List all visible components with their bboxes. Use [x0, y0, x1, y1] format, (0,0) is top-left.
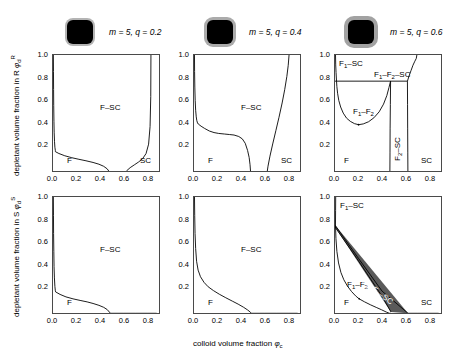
curve-fluid-solid-binodal-left [194, 55, 198, 124]
xtick-top-2-0.2: 0.2 [207, 174, 227, 183]
header-2-m: m = 5, [249, 27, 273, 37]
panel-header-1: m = 5, q = 0.2 [67, 20, 161, 44]
ytick-bottom-2-0.2: 0.2 [169, 282, 189, 291]
panel-header-3: m = 5, q = 0.6 [348, 20, 442, 44]
ytick-top-1-0.2: 0.2 [28, 140, 48, 149]
region-label-f1-sc-top-3: F1–SC [339, 60, 363, 68]
ytick-bottom-1-1.0: 1.0 [28, 192, 48, 201]
xtick-top-1-0.0: 0.0 [42, 174, 62, 183]
xtick-bottom-3-0.8: 0.8 [420, 316, 440, 325]
region-label-sc-top-2: SC [281, 157, 292, 165]
header-1-m: m = 5, [109, 27, 133, 37]
region-label-f-bottom-3: F [344, 299, 349, 307]
ytick-bottom-3-0.8: 0.8 [310, 215, 330, 224]
ytick-top-2-0.8: 0.8 [169, 73, 189, 82]
ytick-bottom-2-0.6: 0.6 [169, 237, 189, 246]
y-axis-top-sub: d [16, 59, 22, 62]
ytick-top-1-0.4: 0.4 [28, 118, 48, 127]
region-label-f-sc-bottom-2: F–SC [241, 246, 261, 254]
ytick-bottom-1-0.6: 0.6 [28, 237, 48, 246]
ytick-top-3-0.4: 0.4 [310, 118, 330, 127]
y-axis-bottom-sup: S [10, 197, 16, 201]
x-axis-text: colloid volume fraction [193, 339, 274, 348]
ytick-top-2-0.2: 0.2 [169, 140, 189, 149]
ytick-top-3-1.0: 1.0 [310, 50, 330, 59]
ytick-top-3-0.8: 0.8 [310, 73, 330, 82]
curve-f1f2-binodal-left [337, 81, 359, 125]
y-axis-label-top-row: depletant volume fraction in R φdR [12, 55, 21, 176]
ytick-bottom-2-1.0: 1.0 [169, 192, 189, 201]
ytick-top-1-0.8: 0.8 [28, 73, 48, 82]
panel-header-label-2: m = 5, q = 0.4 [249, 27, 301, 37]
ytick-bottom-1-0.8: 0.8 [28, 215, 48, 224]
region-label-f-top-2: F [208, 157, 213, 165]
plot-area-top-1 [53, 55, 159, 171]
xtick-top-3-0.0: 0.0 [324, 174, 344, 183]
ytick-top-1-0.6: 0.6 [28, 95, 48, 104]
ytick-top-2-0.4: 0.4 [169, 118, 189, 127]
xtick-bottom-1-0.0: 0.0 [42, 316, 62, 325]
ytick-bottom-1-0.2: 0.2 [28, 282, 48, 291]
region-label-sc-top-1: SC [140, 157, 151, 165]
curve-left-edge-branch [335, 55, 336, 81]
y-axis-bottom-sub: d [16, 201, 22, 204]
ytick-top-1-1.0: 1.0 [28, 50, 48, 59]
rounded-square-icon [207, 20, 233, 44]
ytick-bottom-3-1.0: 1.0 [310, 192, 330, 201]
panel-bottom-2: F–SC F [193, 196, 301, 314]
y-axis-top-text: depletant volume fraction in R [12, 68, 21, 176]
xtick-top-2-0.8: 0.8 [279, 174, 299, 183]
region-label-sc-top-3: SC [421, 157, 432, 165]
panel-top-3: F1–SC F1–F2–SC F1–F2 F2–SC F SC [334, 54, 442, 172]
curve-f2sc-left-boundary [390, 81, 391, 171]
region-label-f-bottom-2: F [208, 299, 213, 307]
curve-fluid-solid-binodal [194, 197, 251, 313]
curve-solid-branch [125, 55, 151, 171]
ytick-bottom-1-0.4: 0.4 [28, 260, 48, 269]
panel-header-2: m = 5, q = 0.4 [207, 20, 301, 44]
panel-top-1: F–SC F SC [52, 54, 160, 172]
ytick-bottom-3-0.4: 0.4 [310, 260, 330, 269]
curve-f1f2-binodal-right [359, 81, 391, 125]
plot-area-bottom-2 [194, 197, 300, 313]
xtick-top-3-0.4: 0.4 [372, 174, 392, 183]
curve-fluid-branch [55, 152, 110, 171]
header-1-q: q = 0.2 [135, 27, 161, 37]
xtick-bottom-2-0.8: 0.8 [279, 316, 299, 325]
x-axis-symbol: φ [274, 339, 279, 348]
panel-header-label-1: m = 5, q = 0.2 [109, 27, 161, 37]
ytick-bottom-3-0.6: 0.6 [310, 237, 330, 246]
xtick-top-3-0.2: 0.2 [348, 174, 368, 183]
header-3-q: q = 0.6 [416, 27, 442, 37]
xtick-top-2-0.4: 0.4 [231, 174, 251, 183]
rounded-square-icon [348, 20, 374, 44]
curve-fluid-branch [56, 292, 111, 313]
ytick-top-3-0.6: 0.6 [310, 95, 330, 104]
y-axis-label-bottom-row: depletant volume fraction in S φdS [12, 197, 21, 317]
region-label-f-sc-top-2: F–SC [241, 104, 261, 112]
critical-point-marker [358, 298, 360, 300]
plot-area-top-2 [194, 55, 300, 171]
region-label-f-bottom-1: F [67, 299, 72, 307]
region-label-f-sc-bottom-1: F–SC [100, 246, 120, 254]
xtick-top-1-0.2: 0.2 [66, 174, 86, 183]
y-axis-top-sup: R [10, 55, 16, 59]
xtick-top-1-0.4: 0.4 [90, 174, 110, 183]
region-label-f-top-1: F [67, 157, 72, 165]
ytick-bottom-2-0.4: 0.4 [169, 260, 189, 269]
ytick-bottom-3-0.2: 0.2 [310, 282, 330, 291]
curve-plateau-branch [198, 124, 250, 171]
xtick-bottom-2-0.4: 0.4 [231, 316, 251, 325]
plot-area-bottom-1 [53, 197, 159, 313]
region-label-f1-f2-top-3: F1–F2 [353, 108, 374, 116]
y-axis-top-symbol: φ [12, 63, 21, 68]
region-label-sc-bottom-3: SC [421, 299, 432, 307]
xtick-bottom-3-0.2: 0.2 [348, 316, 368, 325]
xtick-bottom-1-0.6: 0.6 [114, 316, 134, 325]
region-label-f-top-3: F [344, 157, 349, 165]
ytick-top-2-0.6: 0.6 [169, 95, 189, 104]
xtick-top-2-0.0: 0.0 [183, 174, 203, 183]
xtick-bottom-1-0.8: 0.8 [138, 316, 158, 325]
curve-solid-branch [267, 55, 289, 171]
region-label-f1-f2-sc-top-3: F1–F2–SC [374, 71, 410, 79]
